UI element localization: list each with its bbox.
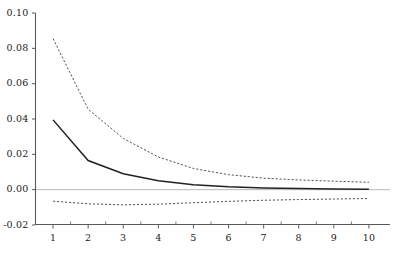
chart-figure: 0.100.080.060.040.020.00-0.02 1234567891… bbox=[0, 0, 394, 261]
lower-confidence-band-line bbox=[53, 199, 369, 205]
x-tick-label: 1 bbox=[41, 232, 65, 243]
y-tick-label: -0.02 bbox=[0, 219, 29, 230]
y-tick-label: 0.08 bbox=[0, 42, 29, 53]
x-tick-marks bbox=[53, 225, 369, 229]
x-tick-label: 8 bbox=[287, 232, 311, 243]
upper-confidence-band-line bbox=[53, 39, 369, 183]
point-estimate-line bbox=[53, 120, 369, 189]
y-tick-label: 0.04 bbox=[0, 113, 29, 124]
x-tick-label: 10 bbox=[357, 232, 381, 243]
x-tick-label: 7 bbox=[252, 232, 276, 243]
y-tick-label: 0.10 bbox=[0, 7, 29, 18]
x-tick-label: 9 bbox=[322, 232, 346, 243]
x-tick-label: 2 bbox=[76, 232, 100, 243]
x-tick-label: 5 bbox=[181, 232, 205, 243]
plot-canvas bbox=[0, 0, 394, 261]
y-tick-label: 0.02 bbox=[0, 148, 29, 159]
x-tick-label: 4 bbox=[146, 232, 170, 243]
x-tick-label: 3 bbox=[111, 232, 135, 243]
y-tick-label: 0.06 bbox=[0, 77, 29, 88]
axis-lines bbox=[35, 13, 390, 225]
x-tick-label: 6 bbox=[217, 232, 241, 243]
y-tick-label: 0.00 bbox=[0, 183, 29, 194]
